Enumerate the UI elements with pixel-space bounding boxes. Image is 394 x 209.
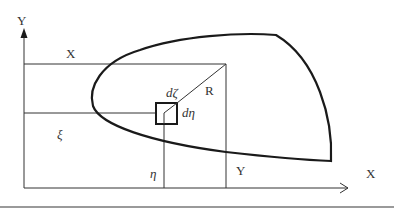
y-axis-arrow-icon bbox=[21, 28, 28, 38]
d-eta-label: dη bbox=[182, 105, 195, 120]
area-element-inner-diagonal bbox=[164, 103, 177, 113]
x-coordinate-label: X bbox=[66, 46, 76, 61]
radius-line bbox=[177, 64, 226, 103]
coordinate-diagram: Y X X Y ξ η R dζ dη bbox=[0, 0, 394, 209]
bottom-separator bbox=[0, 206, 394, 208]
d-zeta-label: dζ bbox=[166, 85, 179, 100]
radius-label: R bbox=[205, 83, 214, 98]
y-axis-label: Y bbox=[17, 13, 27, 28]
x-axis-label: X bbox=[366, 166, 376, 181]
area-element-square bbox=[156, 103, 177, 124]
y-coordinate-label: Y bbox=[236, 163, 246, 178]
xi-label: ξ bbox=[57, 127, 63, 142]
eta-label: η bbox=[150, 166, 156, 181]
